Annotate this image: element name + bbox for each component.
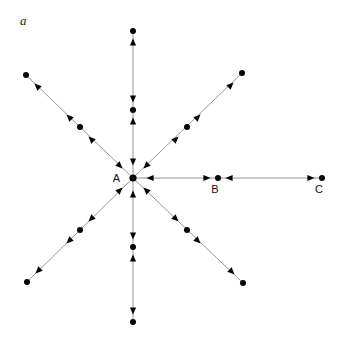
panel-label: a bbox=[20, 13, 27, 28]
arrow-northeast-2 bbox=[193, 114, 200, 121]
arrows-layer bbox=[34, 38, 314, 314]
figure-panel: a ABC bbox=[0, 0, 339, 356]
node-dot-southwest-outer bbox=[24, 279, 30, 285]
arrow-south-1 bbox=[130, 232, 136, 239]
arrow-northwest-1 bbox=[88, 136, 95, 143]
arrow-north-2 bbox=[130, 117, 136, 124]
arrow-northeast-3 bbox=[226, 82, 233, 89]
arrow-south-2 bbox=[130, 254, 136, 261]
node-dot-northeast-mid bbox=[184, 124, 190, 130]
node-dot-east-mid bbox=[215, 175, 221, 181]
arrow-east-1 bbox=[203, 175, 210, 181]
point-label-A: A bbox=[113, 172, 121, 184]
arrow-southeast-2 bbox=[193, 236, 200, 243]
arrow-east-3 bbox=[307, 175, 314, 181]
dots-layer bbox=[23, 28, 325, 325]
node-dot-northwest-mid bbox=[77, 124, 83, 130]
node-dot-southeast-outer bbox=[240, 280, 246, 286]
rays-layer bbox=[26, 31, 322, 322]
node-dot-east-outer bbox=[319, 175, 325, 181]
point-label-B: B bbox=[211, 183, 218, 195]
node-dot-south-mid bbox=[130, 244, 136, 250]
node-dot-southeast-mid bbox=[184, 227, 190, 233]
arrow-north-0 bbox=[130, 158, 136, 165]
arrow-south-3 bbox=[130, 307, 136, 314]
node-dot-north-mid bbox=[130, 107, 136, 113]
node-dot-northwest-outer bbox=[23, 72, 29, 78]
node-dot-center-A bbox=[129, 174, 136, 181]
node-dot-north-outer bbox=[130, 28, 136, 34]
radial-vector-diagram: a ABC bbox=[0, 0, 339, 356]
point-label-C: C bbox=[315, 183, 323, 195]
arrow-north-3 bbox=[130, 38, 136, 45]
node-dot-south-outer bbox=[130, 319, 136, 325]
node-dot-southwest-mid bbox=[77, 227, 83, 233]
arrow-north-1 bbox=[130, 95, 136, 102]
arrow-south-0 bbox=[130, 190, 136, 197]
arrow-southeast-3 bbox=[227, 267, 234, 274]
arrow-east-2 bbox=[225, 175, 232, 181]
node-dot-northeast-outer bbox=[239, 70, 245, 76]
arrow-southwest-0 bbox=[115, 187, 122, 194]
arrow-northwest-2 bbox=[66, 114, 73, 121]
arrow-east-0 bbox=[146, 175, 153, 181]
